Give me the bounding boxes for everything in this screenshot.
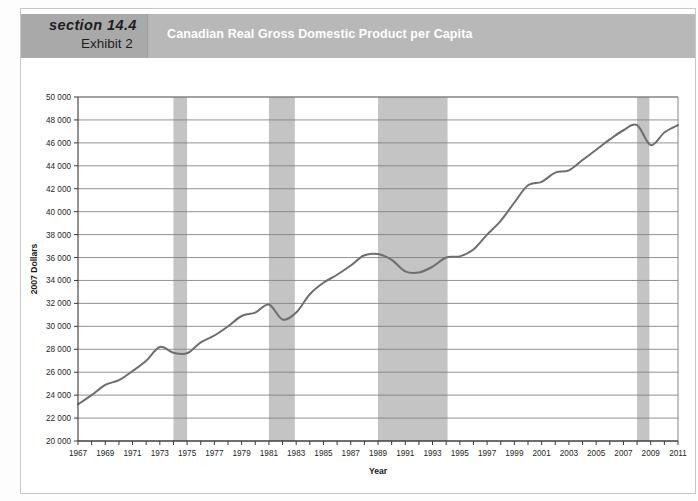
- x-tick-label: 1995: [451, 449, 470, 458]
- x-tick-label: 1969: [96, 449, 115, 458]
- x-tick-label: 2009: [642, 449, 661, 458]
- x-axis-title: Year: [369, 466, 388, 476]
- x-tick-label: 2011: [669, 449, 687, 458]
- x-tick-label: 1989: [369, 449, 388, 458]
- y-tick-label: 20 000: [46, 437, 71, 446]
- y-tick-label: 44 000: [46, 162, 71, 171]
- y-tick-label: 40 000: [46, 208, 71, 217]
- y-tick-label: 46 000: [46, 139, 71, 148]
- x-tick-label: 2007: [614, 449, 633, 458]
- y-tick-label: 26 000: [46, 368, 71, 377]
- header-divider: [147, 14, 148, 58]
- x-tick-label: 1993: [423, 449, 442, 458]
- y-tick-label: 32 000: [46, 299, 71, 308]
- page-root: section 14.4 Exhibit 2 Canadian Real Gro…: [0, 0, 698, 501]
- exhibit-title: Canadian Real Gross Domestic Product per…: [167, 27, 472, 41]
- x-tick-label: 1987: [342, 449, 361, 458]
- recession-band-1981: [269, 97, 295, 441]
- recession-band-1989: [378, 97, 448, 441]
- y-tick-label: 48 000: [46, 116, 71, 125]
- y-tick-label: 50 000: [46, 93, 71, 102]
- x-tick-label: 1973: [151, 449, 170, 458]
- x-tick-label: 1979: [233, 449, 252, 458]
- x-tick-label: 1981: [260, 449, 279, 458]
- exhibit-number: Exhibit 2: [81, 36, 133, 51]
- x-tick-labels: 1967196919711973197519771979198119831985…: [69, 441, 687, 458]
- x-tick-label: 1971: [123, 449, 142, 458]
- x-tick-label: 1983: [287, 449, 306, 458]
- y-axis-title: 2007 Dollars: [29, 243, 39, 294]
- recession-band-2008: [637, 97, 649, 441]
- x-tick-label: 1997: [478, 449, 497, 458]
- x-tick-label: 1999: [505, 449, 524, 458]
- y-tick-label: 42 000: [46, 185, 71, 194]
- chart-container: 20 00022 00024 00026 00028 00030 00032 0…: [21, 58, 695, 493]
- recession-bands-layer: [173, 97, 649, 441]
- y-tick-labels: 20 00022 00024 00026 00028 00030 00032 0…: [46, 93, 78, 446]
- x-tick-label: 1975: [178, 449, 197, 458]
- y-tick-label: 38 000: [46, 231, 71, 240]
- gdp-per-capita-line-chart: 20 00022 00024 00026 00028 00030 00032 0…: [21, 58, 695, 493]
- y-tick-label: 36 000: [46, 254, 71, 263]
- recession-band-1974: [173, 97, 187, 441]
- y-tick-label: 30 000: [46, 322, 71, 331]
- y-tick-label: 34 000: [46, 276, 71, 285]
- y-tick-label: 28 000: [46, 345, 71, 354]
- x-tick-label: 1991: [396, 449, 415, 458]
- x-tick-label: 2001: [533, 449, 552, 458]
- x-tick-label: 1967: [69, 449, 88, 458]
- exhibit-header-band: section 14.4 Exhibit 2 Canadian Real Gro…: [21, 14, 695, 58]
- x-tick-label: 1977: [205, 449, 224, 458]
- x-tick-label: 1985: [314, 449, 333, 458]
- x-tick-label: 2005: [587, 449, 606, 458]
- y-tick-label: 24 000: [46, 391, 71, 400]
- y-tick-label: 22 000: [46, 414, 71, 423]
- section-number: section 14.4: [49, 17, 137, 33]
- x-tick-label: 2003: [560, 449, 579, 458]
